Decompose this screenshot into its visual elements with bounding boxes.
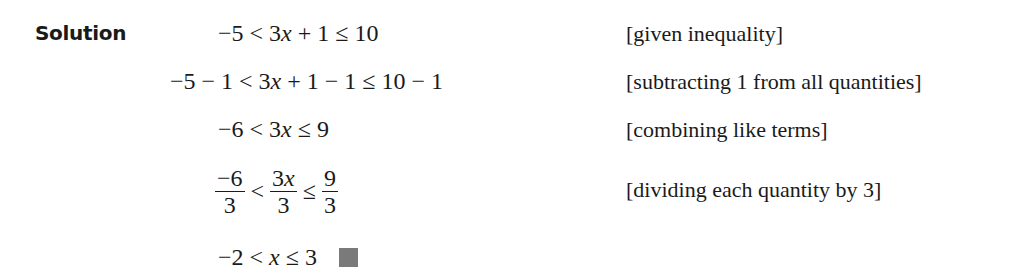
fraction: 3x3 — [270, 165, 297, 218]
solution-label: Solution — [35, 21, 126, 45]
step-3-note: [combining like terms] — [626, 117, 828, 143]
step-1-expression: −5 < 3x + 1 ≤ 10 — [218, 20, 378, 47]
fraction: 93 — [322, 165, 338, 218]
step-3-expression: −6 < 3x ≤ 9 — [218, 116, 329, 143]
step-4-note: [dividing each quantity by 3] — [626, 177, 881, 203]
step-2-expression: −5 − 1 < 3x + 1 − 1 ≤ 10 − 1 — [170, 68, 443, 95]
step-5-expression: −2 < x ≤ 3 — [218, 244, 358, 271]
fraction: −63 — [215, 165, 245, 218]
step-4-expression: −63 < 3x3 ≤ 93 — [215, 165, 338, 218]
step-2-note: [subtracting 1 from all quantities] — [626, 69, 922, 95]
end-of-proof-square-icon — [339, 248, 358, 267]
step-1-note: [given inequality] — [626, 21, 783, 47]
